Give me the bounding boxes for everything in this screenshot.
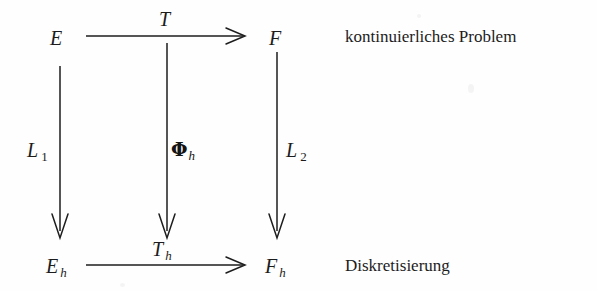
arrow-top-horizontal xyxy=(86,28,245,44)
caption-continuous-problem: kontinuierliches Problem xyxy=(345,28,516,45)
arrow-label-Phih-subscript: h xyxy=(188,148,196,163)
arrow-label-L2: L2 xyxy=(286,140,307,163)
arrow-label-T: T xyxy=(159,9,170,29)
arrow-label-Th: Th xyxy=(152,239,172,262)
node-Fh: Fh xyxy=(265,256,286,279)
arrow-label-Phih: Φh xyxy=(171,140,195,162)
arrow-label-L1: L1 xyxy=(27,140,48,163)
node-Fh-subscript: h xyxy=(277,265,286,280)
node-E: E xyxy=(50,28,62,48)
arrow-right-vertical xyxy=(269,52,285,238)
node-Eh-subscript: h xyxy=(58,265,67,280)
commutative-diagram-canvas: E F Eh Fh T Th L1 Φh L2 kontinuierliches… xyxy=(0,0,597,291)
arrow-label-L2-subscript: 2 xyxy=(297,149,307,164)
arrow-label-L2-base: L xyxy=(286,139,297,161)
node-E-label: E xyxy=(50,27,62,49)
caption-continuous-problem-text: kontinuierliches Problem xyxy=(345,27,516,46)
node-Fh-base: F xyxy=(265,255,277,277)
arrow-label-Th-subscript: h xyxy=(163,248,172,263)
node-Eh-base: E xyxy=(46,255,58,277)
caption-discretization: Diskretisierung xyxy=(345,257,450,274)
arrow-label-T-text: T xyxy=(159,8,170,30)
node-Eh: Eh xyxy=(46,256,67,279)
arrow-label-L1-subscript: 1 xyxy=(38,149,48,164)
node-F: F xyxy=(269,28,281,48)
node-F-label: F xyxy=(269,27,281,49)
arrow-left-vertical xyxy=(52,66,68,238)
arrow-label-L1-base: L xyxy=(27,139,38,161)
arrow-label-Phih-base: Φ xyxy=(171,138,188,160)
arrow-label-Th-base: T xyxy=(152,238,163,260)
caption-discretization-text: Diskretisierung xyxy=(345,256,450,275)
